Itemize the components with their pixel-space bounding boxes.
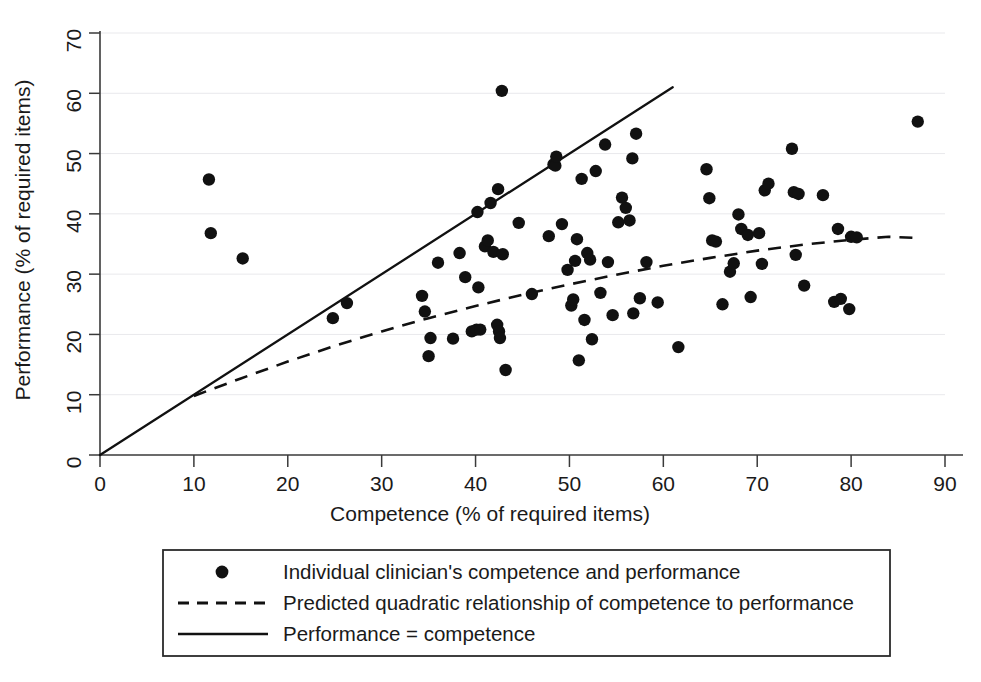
y-axis: 010203040506070: [62, 29, 100, 469]
data-point: [790, 249, 802, 261]
identity-line: [100, 87, 673, 455]
data-point: [623, 214, 635, 226]
data-point: [630, 127, 642, 139]
quadratic-fit-line: [194, 237, 917, 396]
data-point: [422, 350, 434, 362]
chart-figure: 010203040506070 0102030405060708090 Comp…: [0, 0, 981, 682]
data-point: [459, 271, 471, 283]
data-point: [835, 293, 847, 305]
data-point: [237, 252, 249, 264]
y-tick-label: 20: [62, 330, 85, 353]
data-point: [756, 258, 768, 270]
identity-reference-line: [100, 87, 673, 455]
data-point: [700, 163, 712, 175]
data-point: [634, 292, 646, 304]
data-point: [499, 364, 511, 376]
data-point: [419, 305, 431, 317]
data-point: [578, 314, 590, 326]
x-tick-label: 10: [182, 472, 205, 495]
x-tick-label: 60: [652, 472, 675, 495]
data-point: [843, 303, 855, 315]
data-point: [203, 173, 215, 185]
legend-entry-label: Individual clinician's competence and pe…: [283, 560, 740, 583]
data-point: [327, 312, 339, 324]
x-tick-label: 50: [558, 472, 581, 495]
x-tick-label: 80: [839, 472, 862, 495]
data-point: [590, 165, 602, 177]
data-point: [728, 257, 740, 269]
legend-marker-point: [216, 566, 229, 579]
data-point: [753, 227, 765, 239]
data-point: [526, 288, 538, 300]
data-point: [484, 197, 496, 209]
data-point: [494, 332, 506, 344]
x-tick-label: 40: [464, 472, 487, 495]
legend-entry-label: Performance = competence: [283, 622, 535, 645]
data-point: [543, 230, 555, 242]
data-point: [497, 248, 509, 260]
data-point: [620, 202, 632, 214]
y-tick-label: 30: [62, 270, 85, 293]
data-point: [627, 307, 639, 319]
data-point: [652, 296, 664, 308]
data-point: [556, 218, 568, 230]
x-tick-label: 0: [94, 472, 106, 495]
data-point: [513, 217, 525, 229]
x-tick-label: 90: [933, 472, 956, 495]
y-tick-label: 60: [62, 89, 85, 112]
x-axis-title: Competence (% of required items): [330, 502, 650, 525]
data-point: [744, 291, 756, 303]
data-point: [482, 234, 494, 246]
data-point: [416, 290, 428, 302]
data-point: [817, 189, 829, 201]
data-point: [599, 138, 611, 150]
data-point: [732, 208, 744, 220]
data-point: [798, 279, 810, 291]
data-point: [432, 256, 444, 268]
data-point: [453, 247, 465, 259]
y-tick-label: 70: [62, 29, 85, 52]
y-tick-label: 0: [62, 457, 85, 469]
data-point: [832, 223, 844, 235]
data-point: [762, 178, 774, 190]
data-point: [567, 293, 579, 305]
x-tick-label: 30: [370, 472, 393, 495]
data-point: [710, 235, 722, 247]
data-point: [472, 281, 484, 293]
y-tick-label: 10: [62, 391, 85, 414]
data-point: [626, 152, 638, 164]
data-point: [703, 192, 715, 204]
data-point: [612, 216, 624, 228]
data-point: [742, 229, 754, 241]
data-point: [640, 256, 652, 268]
data-point: [573, 354, 585, 366]
data-point: [786, 143, 798, 155]
data-point: [205, 227, 217, 239]
data-point: [447, 332, 459, 344]
data-point: [586, 333, 598, 345]
x-axis: 0102030405060708090: [94, 455, 963, 495]
data-point: [602, 256, 614, 268]
data-point: [912, 115, 924, 127]
data-points: [203, 85, 924, 377]
data-point: [792, 188, 804, 200]
data-point: [341, 297, 353, 309]
y-tick-label: 40: [62, 210, 85, 233]
legend: Individual clinician's competence and pe…: [163, 550, 890, 656]
data-point: [575, 173, 587, 185]
data-point: [550, 150, 562, 162]
data-point: [424, 332, 436, 344]
y-axis-title: Performance (% of required items): [11, 80, 34, 401]
data-point: [716, 298, 728, 310]
scatter-plot-svg: 010203040506070 0102030405060708090 Comp…: [0, 0, 981, 682]
data-point: [584, 253, 596, 265]
data-point: [606, 309, 618, 321]
y-tick-label: 50: [62, 149, 85, 172]
data-point: [594, 287, 606, 299]
quadratic-curve: [194, 237, 917, 396]
legend-entry-label: Predicted quadratic relationship of comp…: [283, 591, 854, 614]
data-point: [571, 233, 583, 245]
data-point: [492, 183, 504, 195]
data-point: [471, 206, 483, 218]
x-tick-label: 70: [746, 472, 769, 495]
